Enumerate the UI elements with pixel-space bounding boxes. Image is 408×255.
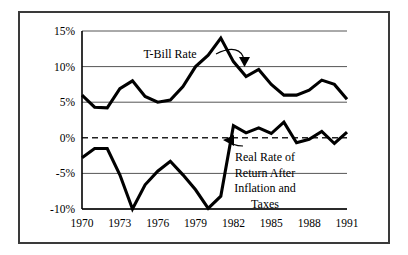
line-chart: 15%10%5%0%-5%-10%19701973197619791982198… <box>20 13 388 242</box>
chart-plot-area: 15%10%5%0%-5%-10%19701973197619791982198… <box>20 13 388 242</box>
series-line-t-bill-rate <box>82 38 347 108</box>
y-tick-label: 15% <box>54 25 76 37</box>
x-tick-label: 1976 <box>146 217 169 229</box>
y-tick-label: 5% <box>60 96 76 108</box>
chart-figure-frame: 15%10%5%0%-5%-10%19701973197619791982198… <box>18 11 390 244</box>
real-rate-annotation-line: Taxes <box>251 197 279 211</box>
y-tick-label: 10% <box>54 61 76 73</box>
t-bill-rate-annotation-label: T-Bill Rate <box>143 47 196 61</box>
x-tick-label: 1988 <box>298 217 321 229</box>
x-tick-label: 1970 <box>71 217 94 229</box>
x-tick-label: 1973 <box>108 217 131 229</box>
y-tick-label: -5% <box>56 167 76 179</box>
x-tick-label: 1979 <box>184 217 207 229</box>
x-tick-label: 1985 <box>260 217 283 229</box>
x-tick-label: 1982 <box>222 217 245 229</box>
real-rate-annotation-line: Real Rate of <box>235 150 295 164</box>
t-bill-rate-arrowhead <box>239 57 250 67</box>
series-line-real-rate <box>82 122 347 209</box>
y-tick-label: 0% <box>60 132 76 144</box>
y-tick-label: -10% <box>50 203 75 215</box>
real-rate-annotation-line: Return After <box>235 166 295 180</box>
real-rate-annotation-line: Inflation and <box>234 181 296 195</box>
real-rate-arrowhead <box>223 135 234 146</box>
x-tick-label: 1991 <box>336 217 359 229</box>
